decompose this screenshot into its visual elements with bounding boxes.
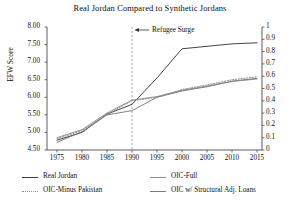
legend-swatch-icon <box>22 187 38 195</box>
series-line-2 <box>57 77 257 139</box>
legend-item[interactable]: OIC w/ Structural Adj. Loans <box>150 187 300 195</box>
legend-item[interactable]: OIC-Minus Pakistan <box>22 187 150 195</box>
annotation-arrow-head <box>135 28 139 32</box>
legend-label: OIC w/ Structural Adj. Loans <box>171 187 256 194</box>
chart-figure: Real Jordan Compared to Synthetic Jordan… <box>0 0 300 209</box>
legend-label: Real Jordan <box>43 173 77 180</box>
chart-legend: Real JordanOIC-FullOIC-Minus PakistanOIC… <box>22 170 300 204</box>
legend-swatch-icon <box>150 187 166 195</box>
series-line-0 <box>57 43 257 140</box>
legend-item[interactable]: OIC-Full <box>150 173 300 181</box>
legend-swatch-icon <box>150 173 166 181</box>
series-line-3 <box>57 78 257 142</box>
legend-swatch-icon <box>22 173 38 181</box>
legend-row: OIC-Minus PakistanOIC w/ Structural Adj.… <box>22 184 300 198</box>
legend-label: OIC-Minus Pakistan <box>43 187 102 194</box>
legend-label: OIC-Full <box>171 173 197 180</box>
annotation-refugee-surge: Refugee Surge <box>152 26 194 34</box>
legend-item[interactable]: Real Jordan <box>22 173 150 181</box>
legend-row: Real JordanOIC-Full <box>22 170 300 184</box>
